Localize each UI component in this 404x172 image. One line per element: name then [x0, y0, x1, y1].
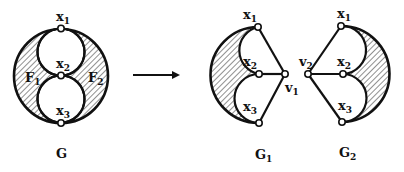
vertex-x1 [58, 25, 64, 31]
vertex-label-x1: x1 [243, 7, 257, 24]
vertex-label-x2: x2 [337, 54, 351, 71]
graph-split-diagram: x1 x2 x3 F1 F2 G x1 x2 x3 v1 G1 [0, 0, 404, 172]
vertex-label-x3: x3 [338, 98, 352, 115]
edge-x1-v1 [258, 27, 285, 74]
edge-v2-x3 [308, 74, 342, 122]
vertex-label-x2: x2 [243, 54, 257, 71]
vertex-v1 [282, 71, 288, 77]
graph-g: x1 x2 x3 F1 F2 G [14, 9, 108, 161]
graph-label-g: G [56, 146, 67, 161]
vertex-x3 [339, 119, 345, 125]
graph-label-g1: G1 [255, 147, 272, 164]
graph-g2: x1 x2 x3 v2 G2 [298, 6, 389, 162]
vertex-x2 [340, 71, 346, 77]
vertex-x2 [256, 71, 262, 77]
vertex-x2 [58, 72, 64, 78]
graph-label-g2: G2 [339, 145, 356, 162]
vertex-label-v2: v2 [298, 54, 313, 71]
vertex-label-x3: x3 [243, 99, 257, 116]
vertex-v2 [305, 71, 311, 77]
edge-x3-v1 [259, 74, 285, 123]
vertex-label-v1: v1 [284, 80, 299, 97]
vertex-label-x1: x1 [337, 6, 351, 23]
graph-g1: x1 x2 x3 v1 G1 [210, 7, 298, 164]
vertex-x3 [256, 120, 262, 126]
vertex-label-x1: x1 [56, 9, 70, 26]
vertex-x3 [58, 120, 64, 126]
vertex-x1 [255, 24, 261, 30]
vertex-x1 [338, 23, 344, 29]
